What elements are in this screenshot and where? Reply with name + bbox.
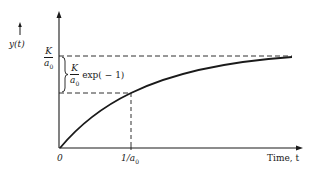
x-axis-arrow-icon	[296, 146, 303, 151]
y-axis-arrow-icon	[57, 11, 62, 18]
exp-term: exp( − 1)	[82, 70, 124, 80]
y-axis-label: y(t)	[9, 40, 25, 49]
brace-icon	[62, 57, 68, 92]
x-tick-label: 1/a0	[121, 154, 139, 165]
y-label-arrow-icon	[18, 22, 22, 27]
brace-label: K a0 exp( − 1)	[70, 64, 124, 87]
origin-label: 0	[57, 154, 63, 163]
x-axis-label: Time, t	[267, 154, 299, 163]
response-plot	[0, 0, 312, 170]
asymptote-label: K a0	[44, 47, 53, 70]
